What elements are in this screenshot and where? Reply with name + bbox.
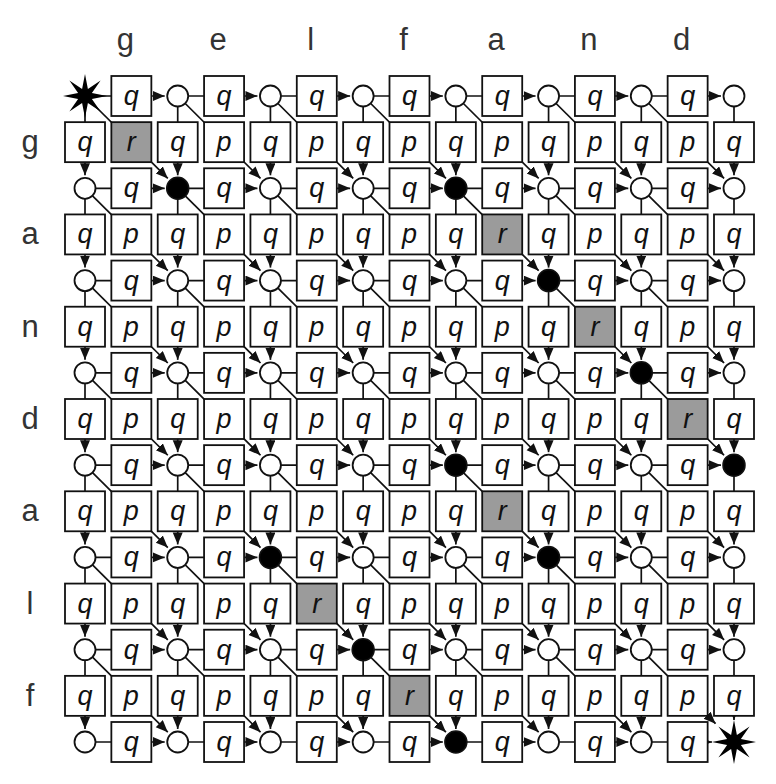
cost-label: p: [401, 312, 417, 342]
cost-label: p: [216, 589, 232, 619]
cost-label: q: [402, 542, 417, 572]
cost-label: q: [587, 727, 602, 757]
path-node: [445, 731, 467, 753]
column-letter: a: [488, 22, 506, 57]
cost-label: q: [495, 358, 510, 388]
cost-label: q: [77, 404, 92, 434]
cost-label: q: [77, 681, 92, 711]
lattice-node: [75, 270, 96, 291]
cost-label: q: [217, 450, 232, 480]
cost-label: q: [170, 219, 185, 249]
cost-label: q: [263, 496, 278, 526]
lattice-node: [631, 639, 652, 660]
cost-label: q: [77, 496, 92, 526]
lattice-node: [260, 270, 281, 291]
cost-label: q: [587, 358, 602, 388]
lattice-node: [167, 547, 188, 568]
cost-label: q: [448, 404, 463, 434]
lattice-node: [538, 455, 559, 476]
cost-label: q: [124, 635, 139, 665]
cost-label: q: [402, 358, 417, 388]
cost-label: q: [726, 589, 741, 619]
cost-label: q: [402, 727, 417, 757]
lattice-node: [260, 362, 281, 383]
lattice-node: [353, 86, 374, 107]
lattice-node: [538, 178, 559, 199]
lattice-node: [75, 178, 96, 199]
column-letter: n: [580, 22, 597, 57]
path-node: [352, 639, 374, 661]
cost-label: p: [586, 127, 602, 157]
cost-label: q: [680, 450, 695, 480]
cost-label: p: [494, 312, 510, 342]
cost-label: q: [402, 173, 417, 203]
cost-label: p: [401, 496, 417, 526]
cost-label: q: [263, 219, 278, 249]
cost-label: q: [263, 589, 278, 619]
cost-label: r: [405, 681, 415, 711]
cost-label: q: [263, 681, 278, 711]
cost-label: q: [587, 173, 602, 203]
lattice-node: [353, 362, 374, 383]
lattice-node: [445, 547, 466, 568]
cost-label: q: [217, 358, 232, 388]
cost-label: p: [401, 127, 417, 157]
lattice-node: [723, 547, 744, 568]
cost-label: p: [216, 404, 232, 434]
cost-label: r: [498, 496, 508, 526]
cost-label: p: [401, 219, 417, 249]
lattice-node: [167, 362, 188, 383]
lattice-node: [631, 86, 652, 107]
cost-label: q: [402, 635, 417, 665]
lattice-node: [167, 639, 188, 660]
cost-label: q: [680, 173, 695, 203]
cost-label: q: [124, 173, 139, 203]
cost-label: p: [586, 496, 602, 526]
lattice-node: [723, 86, 744, 107]
cost-label: q: [309, 266, 324, 296]
cost-label: q: [170, 404, 185, 434]
column-letter: g: [117, 22, 134, 57]
lattice-node: [723, 362, 744, 383]
cost-label: q: [170, 589, 185, 619]
cost-label: q: [587, 81, 602, 111]
cost-label: q: [402, 266, 417, 296]
lattice-node: [75, 362, 96, 383]
cost-label: p: [494, 127, 510, 157]
lattice-node: [631, 547, 652, 568]
lattice-node: [260, 86, 281, 107]
cost-label: p: [216, 312, 232, 342]
cost-label: q: [495, 450, 510, 480]
cost-label: q: [448, 219, 463, 249]
cost-label: q: [309, 635, 324, 665]
lattice-node: [723, 639, 744, 660]
cost-label: q: [356, 127, 371, 157]
column-letter: l: [307, 22, 314, 57]
cost-label: p: [679, 127, 695, 157]
lattice-node: [538, 86, 559, 107]
cost-label: q: [541, 219, 556, 249]
cost-label: q: [77, 219, 92, 249]
lattice-node: [723, 270, 744, 291]
cost-label: p: [123, 496, 139, 526]
cost-label: q: [587, 266, 602, 296]
path-node: [538, 270, 560, 292]
lattice-node: [75, 547, 96, 568]
start-star: [63, 74, 107, 118]
cost-label: q: [634, 219, 649, 249]
lattice-node: [353, 455, 374, 476]
cost-label: q: [634, 681, 649, 711]
lattice-node: [167, 270, 188, 291]
cost-label: q: [726, 404, 741, 434]
lattice-node: [445, 362, 466, 383]
row-letter: n: [21, 309, 38, 344]
cost-label: q: [356, 496, 371, 526]
cost-label: q: [680, 542, 695, 572]
path-node: [538, 546, 560, 568]
cost-label: q: [726, 312, 741, 342]
lattice-node: [167, 86, 188, 107]
cost-label: p: [679, 219, 695, 249]
cost-label: q: [495, 81, 510, 111]
cost-label: q: [634, 312, 649, 342]
lattice-node: [353, 178, 374, 199]
